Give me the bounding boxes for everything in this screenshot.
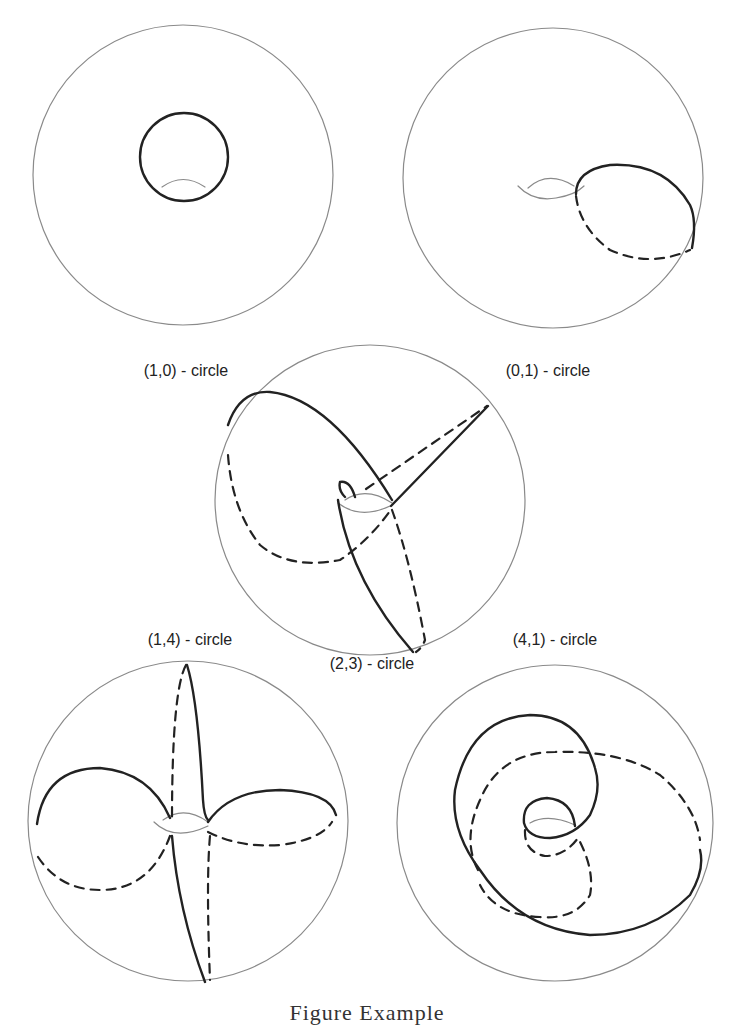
panel-2-3 <box>215 345 525 655</box>
panel-1-0 <box>33 25 333 325</box>
panel-label-2-3: (2,3) - circle <box>330 655 414 673</box>
torus-hole <box>338 494 392 513</box>
torus-hole <box>518 178 584 198</box>
panel-1-4 <box>28 661 348 982</box>
torus-outline <box>397 665 713 981</box>
torus-hole <box>154 813 208 833</box>
knot-curve-back <box>576 196 690 259</box>
torus-outline <box>33 25 333 325</box>
knot-curve-back <box>470 752 700 917</box>
panel-label-1-0: (1,0) - circle <box>144 362 228 380</box>
knot-curve-front <box>576 165 694 248</box>
knot-curve <box>140 113 228 201</box>
knot-curve-front <box>37 665 336 982</box>
panel-0-1 <box>403 28 703 328</box>
figure-caption: Figure Example <box>289 1000 444 1026</box>
torus-hole <box>162 180 205 188</box>
panel-label-1-4: (1,4) - circle <box>148 631 232 649</box>
knot-curve-front <box>454 715 701 935</box>
torus-hole <box>530 818 575 825</box>
knot-curve-back <box>38 665 332 980</box>
panel-4-1 <box>397 665 713 981</box>
panel-label-4-1: (4,1) - circle <box>513 631 597 649</box>
panel-label-0-1: (0,1) - circle <box>506 362 590 380</box>
